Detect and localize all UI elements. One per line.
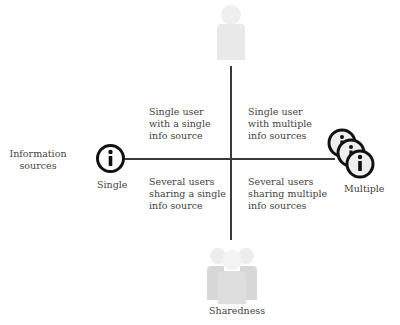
quadrant-top-right: Single user with multiple info sources (248, 106, 312, 142)
x-axis-right-label: Multiple (344, 183, 384, 195)
quadrant-bottom-left: Several users sharing a single info sour… (149, 176, 226, 212)
quadrant-top-left: Single user with a single info source (149, 106, 211, 142)
quadrant-bottom-right: Several users sharing multiple info sour… (248, 176, 327, 212)
info-icon-front (347, 151, 373, 177)
x-axis-title: Information sources (2, 148, 74, 172)
single-user-icon (212, 2, 250, 64)
stacked-info-icons (325, 126, 385, 184)
y-axis-title: Sharedness (209, 305, 265, 317)
x-axis-left-label: Single (97, 179, 127, 191)
group-users-icon (204, 244, 260, 306)
horizontal-axis-information-sources (124, 158, 335, 160)
vertical-axis-sharedness (230, 66, 232, 240)
info-icon (95, 143, 126, 174)
